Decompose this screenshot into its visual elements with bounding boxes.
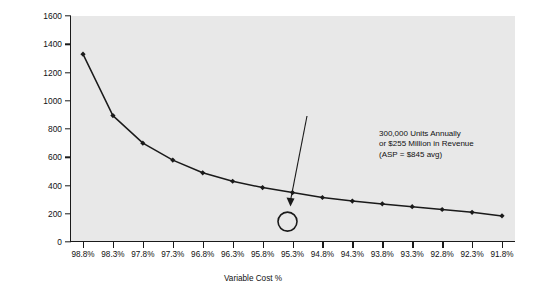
data-point-marker	[80, 52, 85, 57]
data-point-marker	[469, 210, 474, 215]
x-axis-tick-mark	[233, 241, 234, 248]
x-axis-tick-mark	[472, 241, 473, 248]
x-axis-tick-mark	[322, 241, 323, 248]
highlight-circle-marker	[278, 212, 297, 231]
data-point-marker	[230, 179, 235, 184]
x-axis-tick-mark	[263, 241, 264, 248]
x-axis-title: Variable Cost %	[224, 274, 282, 283]
y-axis-tick: 1400	[5, 39, 71, 49]
y-axis-tick-mark	[65, 185, 71, 186]
x-axis-tick-mark	[382, 241, 383, 248]
y-axis-tick-mark	[65, 213, 71, 214]
annotation-line-1: 300,000 Units Annually	[379, 129, 474, 139]
annotation-callout: 300,000 Units Annually or $255 Million i…	[379, 129, 474, 160]
callout-leader-line	[291, 116, 308, 201]
x-axis-tick-mark	[203, 241, 204, 248]
data-point-marker	[440, 207, 445, 212]
y-axis-tick-mark	[65, 100, 71, 101]
y-axis-tick-mark	[65, 15, 71, 16]
x-axis-tick-label: 91.8%	[480, 250, 524, 259]
y-axis-tick: 600	[5, 152, 71, 162]
callout-arrowhead	[287, 198, 295, 207]
annotation-line-3: (ASP = $845 avg)	[379, 150, 474, 160]
y-axis-tick: 1600	[5, 11, 71, 21]
y-axis-tick-mark	[65, 128, 71, 129]
x-axis-tick-mark	[83, 241, 84, 248]
y-axis-tick-mark	[65, 72, 71, 73]
data-point-marker	[350, 198, 355, 203]
x-axis-tick-mark	[442, 241, 443, 248]
data-point-marker	[499, 213, 504, 218]
data-point-marker	[320, 195, 325, 200]
data-point-marker	[200, 170, 205, 175]
y-axis-tick: 0	[5, 237, 71, 247]
x-axis-tick-mark	[293, 241, 294, 248]
x-axis-tick-mark	[173, 241, 174, 248]
y-axis-tick: 200	[5, 209, 71, 219]
y-axis-tick: 400	[5, 181, 71, 191]
x-axis-tick-mark	[143, 241, 144, 248]
y-axis-tick-mark	[65, 44, 71, 45]
y-axis-tick: 800	[5, 124, 71, 134]
y-axis-tick-mark	[65, 157, 71, 158]
x-axis-tick-mark	[113, 241, 114, 248]
data-point-marker	[380, 201, 385, 206]
y-axis-tick: 1200	[5, 68, 71, 78]
y-axis-tick: 1000	[5, 96, 71, 106]
x-axis-tick-mark	[502, 241, 503, 248]
x-axis-tick-mark	[352, 241, 353, 248]
chart-figure: Revenue/Year($M) Variable Cost % 300,000…	[0, 0, 536, 296]
plot-area: 300,000 Units Annually or $255 Million i…	[70, 16, 515, 242]
y-axis-tick-mark	[65, 241, 71, 242]
annotation-line-2: or $255 Million in Revenue	[379, 139, 474, 149]
x-axis-tick-mark	[412, 241, 413, 248]
data-point-marker	[260, 185, 265, 190]
data-point-marker	[410, 204, 415, 209]
